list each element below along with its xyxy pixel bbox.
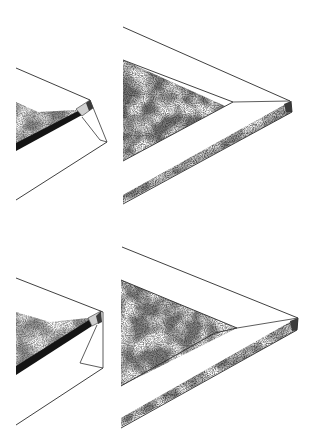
panel-top-right (123, 27, 292, 204)
wedge-diagram (0, 0, 315, 448)
panel-top-left (16, 68, 107, 200)
panel-bottom-right (121, 247, 298, 428)
panel-bottom-left (16, 278, 103, 425)
stippled-triangle-shade (123, 60, 225, 161)
bottom-edge-line (16, 368, 103, 425)
top-edge-line (16, 68, 90, 100)
bottom-edge-line (16, 142, 107, 200)
top-edge-line (16, 278, 103, 312)
ridge-line (233, 101, 290, 102)
